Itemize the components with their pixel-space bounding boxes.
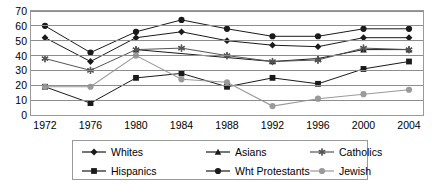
legend-marker-circle	[205, 164, 231, 178]
y-tick-label: 60	[3, 21, 27, 31]
data-point-circle	[178, 17, 184, 23]
y-tick-label: 40	[3, 51, 27, 61]
y-tick-label: 30	[3, 65, 27, 75]
legend-marker-square	[81, 164, 107, 178]
data-point-square	[91, 168, 97, 174]
data-point-circle	[315, 33, 321, 39]
data-point-square	[406, 59, 412, 65]
x-tick-label: 2004	[386, 120, 432, 131]
data-point-diamond	[87, 58, 94, 65]
y-tick-label: 0	[3, 110, 27, 120]
data-point-circle	[224, 26, 230, 32]
data-point-circle	[406, 26, 412, 32]
x-tick-label: 1992	[250, 120, 296, 131]
chart-legend: WhitesAsiansCatholicsHispanicsWht Protes…	[72, 140, 368, 180]
x-tick-label: 1984	[159, 120, 205, 131]
legend-label: Jewish	[339, 166, 371, 177]
gridline	[31, 11, 423, 12]
gridline	[31, 25, 423, 26]
y-tick-label: 10	[3, 95, 27, 105]
gridline	[31, 55, 423, 56]
plot-area	[30, 10, 424, 116]
data-point-circle-gray	[406, 87, 412, 93]
legend-marker-diamond	[81, 145, 107, 159]
x-tick-label: 2000	[341, 120, 387, 131]
data-point-square	[133, 75, 139, 81]
data-point-circle	[133, 29, 139, 35]
legend-label: Catholics	[339, 147, 382, 158]
legend-marker-circle-gray	[309, 164, 335, 178]
data-point-diamond	[178, 28, 185, 35]
y-tick-label: 70	[3, 6, 27, 16]
series-jewish	[42, 52, 412, 109]
data-point-circle-gray	[269, 103, 275, 109]
data-point-square	[270, 75, 276, 81]
y-tick-label: 50	[3, 36, 27, 46]
series-whites	[42, 28, 413, 65]
chart-container: 010203040506070 197219761980198419881992…	[0, 0, 439, 184]
legend-marker-triangle	[205, 145, 231, 159]
legend-item-wht-protestants[interactable]: Wht Protestants	[205, 161, 310, 181]
x-tick-label: 1972	[22, 120, 68, 131]
legend-item-hispanics[interactable]: Hispanics	[81, 161, 157, 181]
x-tick-label: 1980	[113, 120, 159, 131]
x-tick-label: 1988	[204, 120, 250, 131]
data-point-square	[179, 71, 185, 77]
data-point-diamond	[269, 42, 276, 49]
x-tick-label: 1976	[68, 120, 114, 131]
data-point-circle-gray	[178, 76, 184, 82]
gridline	[31, 70, 423, 71]
gridline	[31, 40, 423, 41]
legend-marker-asterisk	[309, 145, 335, 159]
data-point-circle	[360, 26, 366, 32]
data-point-square	[88, 100, 94, 106]
legend-item-asians[interactable]: Asians	[205, 142, 267, 162]
x-tick-label: 1996	[295, 120, 341, 131]
legend-label: Asians	[235, 147, 267, 158]
legend-item-catholics[interactable]: Catholics	[309, 142, 382, 162]
gridline	[31, 85, 423, 86]
legend-item-whites[interactable]: Whites	[81, 142, 143, 162]
data-point-circle	[215, 168, 221, 174]
legend-label: Wht Protestants	[235, 166, 310, 177]
y-tick-label: 20	[3, 80, 27, 90]
data-point-circle-gray	[360, 91, 366, 97]
legend-label: Whites	[111, 147, 143, 158]
data-point-diamond	[315, 43, 322, 50]
gridline	[31, 100, 423, 101]
legend-item-jewish[interactable]: Jewish	[309, 161, 371, 181]
legend-label: Hispanics	[111, 166, 157, 177]
data-point-circle	[269, 33, 275, 39]
data-point-circle-gray	[319, 168, 325, 174]
data-point-diamond	[91, 149, 98, 156]
